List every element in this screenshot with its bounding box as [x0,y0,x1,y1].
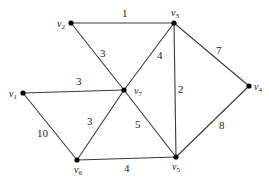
edge-v4-v5 [176,86,249,157]
edge-weight-label: 8 [219,119,225,131]
edge-weight-label: 7 [216,44,222,56]
vertex-label-v1: v1 [9,88,17,101]
graph-diagram: 134273103548 v1v2v3v4v5v6v7 [0,0,269,180]
edge-v3-v4 [174,23,249,86]
vertex-label-v5: v5 [172,161,180,174]
edge-weight-label: 3 [100,47,106,59]
edge-v6-v7 [77,90,124,160]
edge-v6-v5 [77,157,176,160]
edge-v1-v6 [23,93,77,160]
edge-weight-label: 4 [157,49,163,61]
vertex-label-v6: v6 [74,164,82,177]
vertex-v4 [246,83,251,88]
edge-weight-label: 2 [178,83,184,95]
vertex-v3 [171,20,176,25]
edge-weight-label: 3 [76,75,82,87]
edge-weight-label: 10 [37,127,49,139]
edge-weight-label: 3 [87,115,93,127]
edge-v3-v5 [174,23,176,157]
edge-weight-label: 1 [122,7,128,19]
vertex-v5 [173,154,178,159]
edge-weight-label: 5 [135,118,141,130]
vertex-v1 [20,90,25,95]
vertex-v7 [121,87,126,92]
vertex-label-v2: v2 [57,18,65,31]
vertex-label-v3: v3 [171,7,179,20]
edge-v7-v5 [124,90,176,157]
vertex-v2 [68,20,73,25]
edge-v1-v7 [23,90,124,93]
vertex-label-v7: v7 [134,85,142,98]
edge-weights-layer: 134273103548 [37,7,225,174]
edge-v3-v7 [124,23,174,90]
edge-weight-label: 4 [124,162,130,174]
vertex-label-v4: v4 [254,81,262,94]
vertex-v6 [74,157,79,162]
